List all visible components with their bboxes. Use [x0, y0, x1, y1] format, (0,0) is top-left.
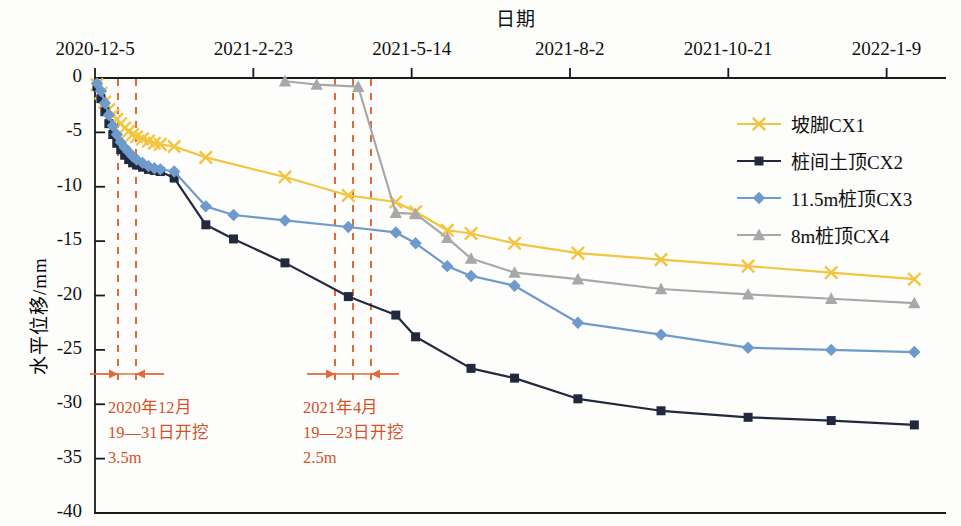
- excavation-1-line: 19—31日开挖: [108, 420, 209, 445]
- y-tick-label: -35: [0, 446, 82, 468]
- excavation-2-line: 2.5m: [303, 445, 404, 470]
- excavation-1-span: [90, 370, 164, 379]
- y-tick-label: -40: [0, 500, 82, 522]
- series-line: [97, 87, 914, 425]
- legend-label-1: 坡脚CX1: [791, 110, 865, 137]
- legend-item-1[interactable]: [737, 118, 781, 130]
- x-tick-label: 2022-1-9: [852, 38, 922, 60]
- square-marker: [344, 292, 353, 301]
- diamond-marker: [753, 192, 765, 204]
- square-marker: [744, 413, 753, 422]
- square-marker: [573, 394, 582, 403]
- diamond-marker: [655, 328, 667, 340]
- legend-label-2: 桩间土顶CX2: [791, 147, 903, 174]
- diamond-marker: [908, 346, 920, 358]
- y-tick-label: -25: [0, 337, 82, 359]
- legend-item-3[interactable]: [737, 192, 781, 204]
- square-marker: [755, 157, 764, 166]
- square-marker: [467, 364, 476, 373]
- square-marker: [280, 258, 289, 267]
- square-marker: [229, 234, 238, 243]
- legend-label-4: 8m桩顶CX4: [791, 221, 889, 248]
- legend-item-2[interactable]: [737, 157, 781, 166]
- y-tick-label: -10: [0, 174, 82, 196]
- x-tick-label: 2021-2-23: [214, 38, 293, 60]
- diamond-marker: [572, 316, 584, 328]
- legend-label-3: 11.5m桩顶CX3: [791, 184, 912, 211]
- excavation-2-line: 19—23日开挖: [303, 420, 404, 445]
- chart-container: 日期 水平位移/mm 0-5-10-15-20-25-30-35-402020-…: [0, 0, 961, 526]
- diamond-marker: [742, 342, 754, 354]
- excavation-1-label: 2020年12月19—31日开挖3.5m: [108, 395, 209, 470]
- x-tick-label: 2021-10-21: [684, 38, 773, 60]
- square-marker: [391, 311, 400, 320]
- diamond-marker: [390, 226, 402, 238]
- x-tick-label: 2021-5-14: [372, 38, 451, 60]
- diamond-marker: [279, 214, 291, 226]
- diamond-marker: [508, 280, 520, 292]
- y-tick-label: -20: [0, 283, 82, 305]
- y-tick-label: -15: [0, 228, 82, 250]
- square-marker: [910, 420, 919, 429]
- x-tick-label: 2020-12-5: [56, 38, 135, 60]
- square-marker: [827, 416, 836, 425]
- y-tick-label: 0: [0, 65, 82, 87]
- y-tick-label: -30: [0, 391, 82, 413]
- square-marker: [510, 374, 519, 383]
- x-tick-label: 2021-8-2: [535, 38, 605, 60]
- excavation-2-label: 2021年4月19—23日开挖2.5m: [303, 395, 404, 470]
- diamond-marker: [465, 270, 477, 282]
- legend-item-4[interactable]: [737, 229, 781, 241]
- square-marker: [411, 332, 420, 341]
- excavation-2-line: 2021年4月: [303, 395, 404, 420]
- diamond-marker: [227, 209, 239, 221]
- excavation-1-line: 2020年12月: [108, 395, 209, 420]
- square-marker: [657, 406, 666, 415]
- square-marker: [201, 220, 210, 229]
- excavation-1-line: 3.5m: [108, 445, 209, 470]
- diamond-marker: [825, 344, 837, 356]
- axis-frame: [95, 78, 946, 513]
- y-tick-label: -5: [0, 119, 82, 141]
